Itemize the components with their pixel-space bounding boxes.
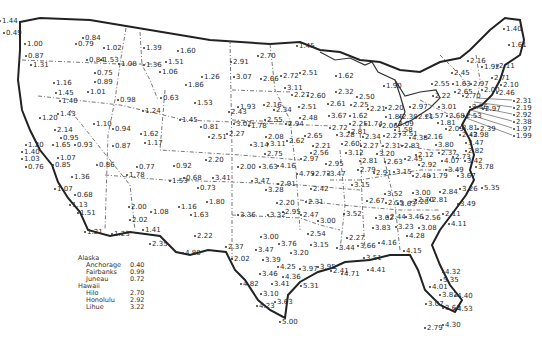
station-value-label: 3.78 (478, 163, 494, 171)
station-value-label: 0.86 (99, 161, 115, 169)
station-dot (96, 164, 98, 166)
station-value-label: 3.63 (277, 298, 293, 306)
station-value-label: 5.31 (303, 282, 319, 290)
station-dot (481, 66, 483, 68)
station-dot (260, 293, 262, 295)
station-value-label: 2.75 (267, 150, 283, 158)
us-map: 1.440.490.841.000.790.871.310.841.531.02… (0, 0, 542, 345)
station-value-label: 2.66 (263, 75, 279, 83)
station-value-label: 3.15 (396, 168, 412, 176)
station-value-label: 1.51 (80, 209, 96, 217)
station-dot (349, 123, 351, 125)
station-value-label: 3.36 (240, 211, 256, 219)
station-value-label: 1.90 (386, 82, 402, 90)
station-dot (265, 189, 267, 191)
station-value-label: 2.97 (485, 105, 501, 113)
station-value-label: 2.61 (330, 100, 346, 108)
station-dot (143, 64, 145, 66)
station-dot (357, 245, 359, 247)
station-value-label: 2.43 (231, 108, 247, 116)
station-dot (206, 201, 208, 203)
station-dot (422, 217, 424, 219)
station-dot (304, 135, 306, 137)
station-dot (259, 273, 261, 275)
station-dot (87, 91, 89, 93)
station-dot (53, 82, 55, 84)
station-dot (399, 116, 401, 118)
station-dot (401, 145, 403, 147)
station-value-label: 1.86 (188, 81, 204, 89)
station-dot (111, 233, 113, 235)
station-value-label: 1.01 (90, 88, 106, 96)
station-dot (200, 126, 202, 128)
station-value-label: 2.60 (310, 92, 326, 100)
station-value-label: 0.79 (78, 40, 94, 48)
station-dot (25, 55, 27, 57)
station-dot (425, 303, 427, 305)
station-dot (459, 134, 461, 136)
station-value-label: 0.73 (200, 184, 216, 192)
station-dot (71, 176, 73, 178)
station-dot (360, 145, 362, 147)
station-dot (310, 244, 312, 246)
station-dot (424, 327, 426, 329)
station-value-label: 2.35 (152, 240, 168, 248)
station-value-label: 4.15 (406, 247, 422, 255)
station-value-label: 3.46 (262, 270, 278, 278)
station-dot (260, 236, 262, 238)
station-dot (463, 115, 465, 117)
station-value-label: 2.42 (313, 185, 329, 193)
station-value-label: 1.36 (74, 173, 90, 181)
station-dot (264, 153, 266, 155)
station-dot (329, 127, 331, 129)
station-dot (384, 161, 386, 163)
station-value-label: 0.68 (77, 191, 93, 199)
station-value-label: 3.20 (379, 150, 395, 158)
station-dot (77, 212, 79, 214)
station-value-label: 3.49 (460, 200, 476, 208)
station-dot (357, 169, 359, 171)
station-dot (136, 166, 138, 168)
station-dot (298, 106, 300, 108)
station-dot (412, 192, 414, 194)
station-dot (3, 32, 5, 34)
station-value-label: 3.32 (270, 211, 286, 219)
station-dot (364, 123, 366, 125)
station-value-label: 2.32 (338, 88, 354, 96)
station-dot (399, 133, 401, 135)
station-dot (142, 110, 144, 112)
station-value-label: 3.97 (302, 265, 318, 273)
station-value-label: 3.15 (313, 241, 329, 249)
station-value-label: 1.16 (56, 79, 72, 87)
station-dot (233, 76, 235, 78)
station-dot (197, 187, 199, 189)
station-value-label: 1.41 (145, 226, 161, 234)
station-dot (143, 47, 145, 49)
station-dot (513, 114, 515, 116)
station-dot (491, 77, 493, 79)
station-dot (448, 223, 450, 225)
legend: Alaska Anchorage 0.40 Fairbanks 0.99 Jun… (78, 255, 160, 311)
station-dot (310, 188, 312, 190)
station-dot (481, 89, 483, 91)
station-dot (437, 122, 439, 124)
station-dot (341, 143, 343, 145)
station-dot (178, 206, 180, 208)
station-dot (317, 266, 319, 268)
station-dot (341, 273, 343, 275)
station-name: Lihue (78, 304, 130, 311)
station-value-label: 2.65 (457, 88, 473, 96)
station-value-label: 4.53 (457, 305, 473, 313)
station-dot (54, 129, 56, 131)
station-value-label: 4.80 (185, 249, 201, 257)
station-value-label: 2.81 (432, 196, 448, 204)
station-dot (336, 134, 338, 136)
station-dot (194, 235, 196, 237)
station-dot (513, 100, 515, 102)
station-dot (442, 213, 444, 215)
station-value-label: 2.46 (499, 89, 515, 97)
station-value-label: 3.67 (460, 172, 476, 180)
station-value-label: 5.00 (282, 318, 298, 326)
station-value-label: 3.14 (253, 141, 269, 149)
station-value-label: 2.51 (211, 133, 227, 141)
